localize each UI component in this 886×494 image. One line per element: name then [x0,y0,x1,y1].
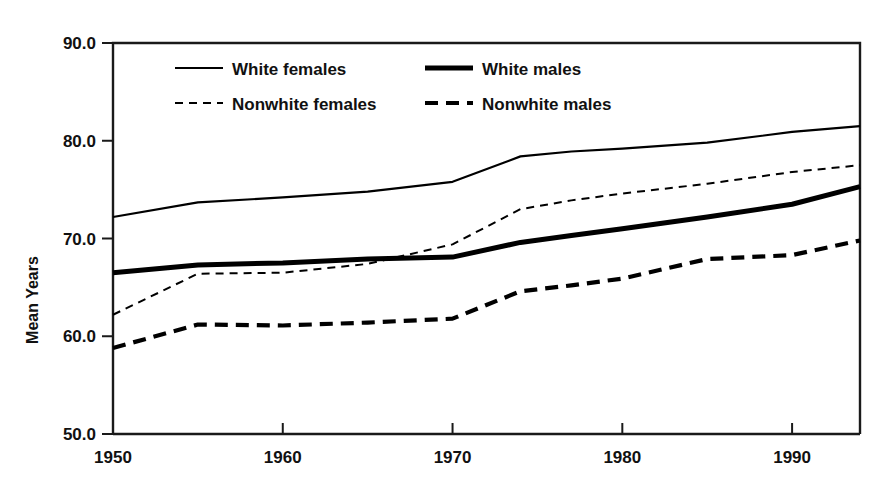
legend-label-nonwhite-females: Nonwhite females [232,95,377,114]
x-tick-label: 1980 [603,448,641,467]
chart-figure: 50.060.070.080.090.0 1950196019701980199… [0,0,886,494]
x-tick-label: 1970 [434,448,472,467]
y-tick-label: 50.0 [63,425,96,444]
series-line-nonwhite-males [113,240,860,348]
y-axis-ticks: 50.060.070.080.090.0 [63,34,113,444]
x-tick-label: 1990 [773,448,811,467]
x-axis-ticks: 19501960197019801990 [94,423,811,467]
y-tick-label: 90.0 [63,34,96,53]
y-axis-title: Mean Years [24,256,41,344]
x-tick-label: 1950 [94,448,132,467]
series-line-nonwhite-females [113,165,860,315]
series-line-white-males [113,187,860,273]
data-series-group [113,126,860,348]
series-line-white-females [113,126,860,217]
legend-label-white-females: White females [232,60,346,79]
y-tick-label: 70.0 [63,230,96,249]
x-tick-label: 1960 [264,448,302,467]
legend-label-white-males: White males [482,60,581,79]
y-tick-label: 80.0 [63,132,96,151]
legend-label-nonwhite-males: Nonwhite males [482,95,611,114]
y-tick-label: 60.0 [63,327,96,346]
line-chart: 50.060.070.080.090.0 1950196019701980199… [0,0,886,494]
chart-legend: White femalesWhite malesNonwhite females… [175,60,611,114]
